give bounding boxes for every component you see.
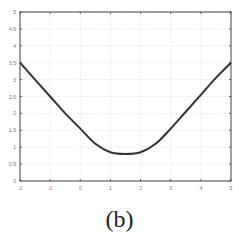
y-tick-label: 1	[13, 144, 16, 150]
y-tick-label: 5	[13, 9, 16, 15]
x-tick-label: 3	[169, 185, 172, 191]
y-tick-label: 2.5	[9, 94, 16, 100]
x-tick-label: 5	[230, 185, 233, 191]
x-tick-label: 4	[199, 185, 202, 191]
x-tick-label: 0	[79, 185, 82, 191]
x-tick-label: -1	[48, 185, 53, 191]
y-tick-label: 3.5	[9, 60, 16, 66]
y-tick-label: 3	[13, 77, 16, 83]
y-tick-label: 1.5	[9, 127, 16, 133]
y-tick-label: 0.5	[9, 161, 16, 167]
line-chart: -2-101234500.511.522.533.544.55	[0, 0, 239, 200]
x-tick-label: 1	[109, 185, 112, 191]
x-tick-label: -2	[18, 185, 23, 191]
y-tick-label: 0	[13, 178, 16, 184]
x-tick-label: 2	[139, 185, 142, 191]
y-tick-label: 4	[13, 43, 16, 49]
figure-caption: (b)	[0, 206, 239, 233]
data-line	[20, 63, 231, 154]
y-tick-label: 2	[13, 110, 16, 116]
y-tick-label: 4.5	[9, 26, 16, 32]
axis-ticks: -2-101234500.511.522.533.544.55	[9, 9, 233, 191]
